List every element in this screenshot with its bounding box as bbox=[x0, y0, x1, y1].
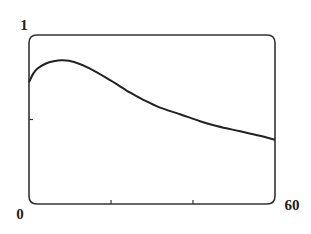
x-tick-label-min: 0 bbox=[16, 206, 24, 222]
chart: 1 0 60 bbox=[0, 0, 311, 234]
x-tick-label-max: 60 bbox=[285, 197, 300, 213]
series-line bbox=[29, 60, 275, 139]
y-tick-label-max: 1 bbox=[20, 17, 28, 33]
